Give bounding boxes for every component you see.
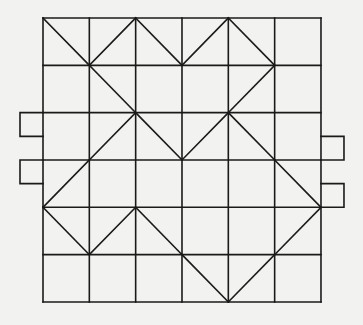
diagonal-line-17: [275, 207, 321, 254]
tab-right-3: [321, 184, 344, 208]
tab-right-2: [321, 136, 344, 160]
diagonal-line-13: [89, 207, 135, 254]
diagonal-line-8: [136, 113, 182, 160]
diagonal-line-16: [275, 160, 321, 207]
diagonal-line-3: [182, 18, 228, 65]
diagonal-line-18: [228, 255, 274, 302]
tab-left-1: [20, 160, 43, 184]
tab-left-0: [20, 113, 43, 137]
diagonal-line-0: [43, 18, 89, 65]
diagonal-line-12: [43, 207, 89, 254]
diagonal-line-4: [228, 18, 274, 65]
grid-net-diagram: [0, 0, 363, 325]
diagonal-line-9: [182, 113, 228, 160]
diagonal-line-1: [89, 18, 135, 65]
diagonal-line-5: [89, 65, 135, 112]
diagonal-line-15: [182, 255, 228, 302]
diagonal-line-10: [228, 113, 274, 160]
diagonal-line-2: [136, 18, 182, 65]
diagonal-line-6: [228, 65, 274, 112]
diagonal-line-7: [89, 113, 135, 160]
diagonal-line-11: [43, 160, 89, 207]
diagonal-line-14: [136, 207, 182, 254]
